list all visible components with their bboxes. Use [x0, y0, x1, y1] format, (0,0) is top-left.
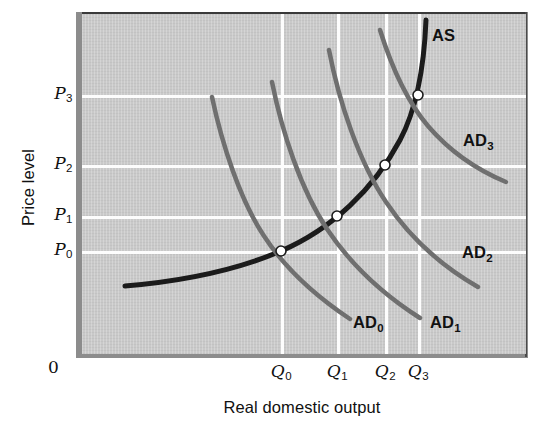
- curve-ad0: [212, 97, 350, 319]
- curve-as: [125, 20, 426, 286]
- curve-label-ad2: AD2: [462, 243, 492, 262]
- x-tick-label-q0: Q0: [259, 361, 303, 381]
- equilibrium-point-e3: [413, 90, 423, 100]
- curve-canvas: [82, 14, 526, 354]
- as-ad-chart-figure: P0P1P2P3 Q0Q1Q2Q3 0 Price level Real dom…: [0, 0, 555, 429]
- equilibrium-point-e0: [276, 246, 286, 256]
- x-axis-title: Real domestic output: [152, 398, 452, 417]
- x-tick-label-q3: Q3: [396, 361, 440, 381]
- y-axis-title: Price level: [19, 98, 38, 278]
- plot-area: [82, 14, 526, 354]
- curve-label-ad0: AD0: [353, 313, 383, 332]
- x-tick-label-q1: Q1: [315, 361, 359, 381]
- curve-ad3: [380, 30, 506, 182]
- equilibrium-point-e1: [332, 211, 342, 221]
- curve-label-ad3: AD3: [463, 131, 493, 150]
- equilibrium-point-e2: [380, 160, 390, 170]
- curve-label-as: AS: [432, 26, 455, 45]
- curve-label-ad1: AD1: [430, 313, 460, 332]
- origin-label: 0: [48, 357, 59, 377]
